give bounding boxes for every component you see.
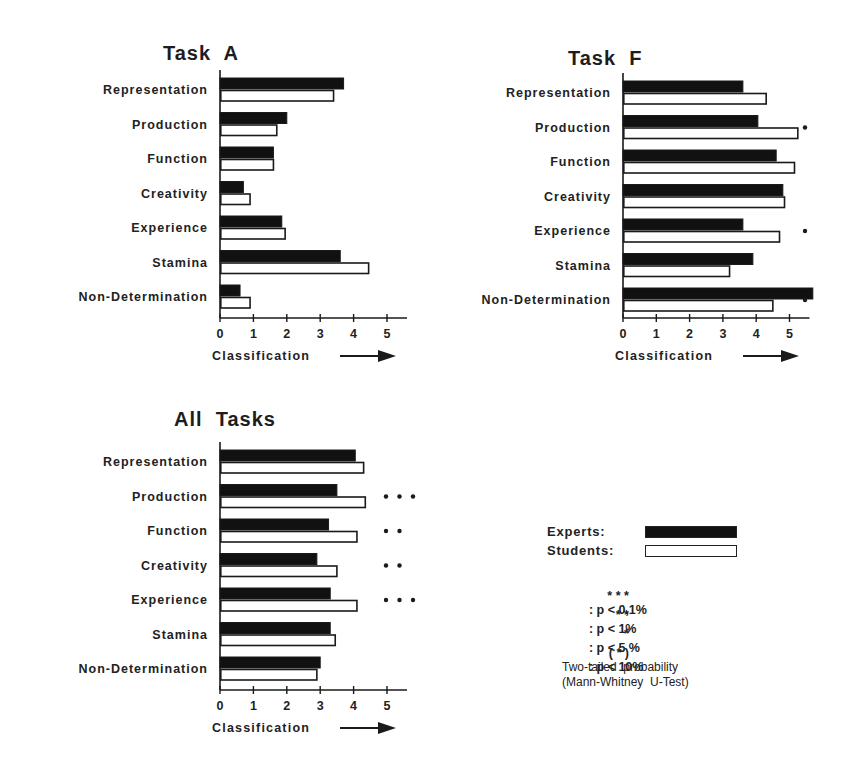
significance-marker [397, 494, 401, 498]
bar-students [221, 532, 357, 543]
bar-experts [220, 623, 330, 634]
legend-swatch-experts [645, 526, 737, 538]
bar-students [221, 601, 357, 612]
bar-experts [220, 588, 330, 599]
significance-marker [411, 598, 415, 602]
chart-legend: Experts: Students: * * * : p < 0,1% * * … [540, 520, 770, 700]
bar-experts [220, 519, 329, 530]
significance-marker [384, 598, 388, 602]
category-label: Non-Determination [79, 662, 209, 676]
significance-marker [397, 563, 401, 567]
category-label: Function [147, 524, 208, 538]
category-label: Representation [103, 455, 208, 469]
x-tick-label: 0 [217, 699, 224, 713]
test-note-line1: Two-tailed probability [562, 660, 678, 674]
bar-experts [220, 450, 355, 461]
category-label: Creativity [141, 559, 208, 573]
bar-experts [220, 554, 317, 565]
test-note-line2: (Mann-Whitney U-Test) [562, 675, 689, 689]
legend-label-experts: Experts: [547, 524, 605, 539]
x-tick-label: 3 [317, 699, 324, 713]
bar-students [221, 566, 337, 577]
x-tick-label: 2 [283, 699, 290, 713]
x-tick-label: 1 [250, 699, 257, 713]
significance-marker [397, 529, 401, 533]
bar-students [221, 497, 365, 508]
x-tick-label: 4 [350, 699, 357, 713]
legend-label-students: Students: [547, 543, 614, 558]
bar-students [221, 670, 317, 681]
significance-marker [384, 563, 388, 567]
significance-marker [397, 598, 401, 602]
bar-experts [220, 485, 337, 496]
bar-experts [220, 657, 320, 668]
category-label: Experience [131, 593, 208, 607]
category-label: Stamina [152, 628, 208, 642]
x-tick-label: 5 [384, 699, 391, 713]
legend-swatch-students [645, 545, 737, 557]
bar-students [221, 463, 364, 474]
category-label: Production [132, 490, 208, 504]
significance-marker [384, 494, 388, 498]
significance-marker [384, 529, 388, 533]
x-axis-label: Classification [212, 721, 310, 735]
significance-marker: ( * ) [589, 646, 629, 660]
bar-students [221, 635, 335, 646]
arrow-head-icon [378, 722, 396, 734]
significance-marker [411, 494, 415, 498]
